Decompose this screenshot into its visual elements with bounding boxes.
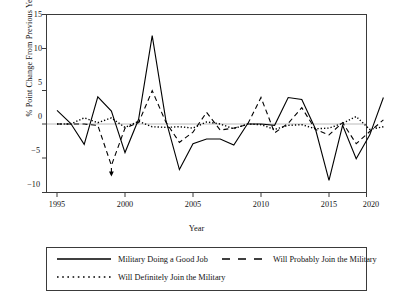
legend-label-definitely-join: Will Definitely Join the Military bbox=[113, 273, 238, 282]
legend-swatch-dotted bbox=[55, 272, 113, 282]
legend-row-2: Will Definitely Join the Military bbox=[55, 270, 238, 284]
legend-box: Military Doing a Good Job Will Probably … bbox=[46, 247, 367, 291]
chart-figure: % Point Change From Previous Year 15 10 … bbox=[0, 0, 393, 299]
legend-label-probably-join: Will Probably Join the Military bbox=[268, 255, 389, 264]
plot-frame bbox=[47, 15, 367, 193]
x-axis-ticks bbox=[57, 193, 367, 198]
y-axis-ticks bbox=[42, 15, 47, 193]
legend-label-good-job: Military Doing a Good Job bbox=[113, 255, 220, 264]
legend-swatch-solid bbox=[55, 254, 113, 264]
legend-swatch-dashed bbox=[220, 254, 268, 264]
legend-row-1: Military Doing a Good Job Will Probably … bbox=[55, 252, 389, 266]
